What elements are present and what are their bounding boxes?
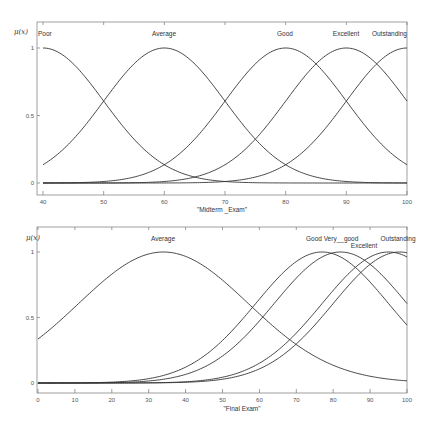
x-tick-label: 80	[282, 199, 289, 205]
series-label: Good	[277, 30, 293, 37]
curve-excellent	[38, 252, 407, 383]
x-tick-label: 40	[182, 397, 189, 403]
curve-good	[38, 252, 407, 383]
series-label: Good	[306, 235, 322, 242]
series-label: Poor	[38, 30, 53, 37]
curve-very-good	[38, 252, 407, 383]
y-tick-label: 0.5	[26, 315, 35, 321]
x-tick-label: 100	[402, 397, 413, 403]
x-tick-label: 60	[256, 397, 263, 403]
bottom-x-axis-label: "Final Exam"	[223, 405, 261, 412]
top-chart: μ(x) 00.51 405060708090100 PoorAverageGo…	[14, 22, 413, 214]
bottom-curves	[38, 252, 407, 383]
x-tick-label: 40	[40, 199, 47, 205]
x-tick-label: 80	[330, 397, 337, 403]
top-x-ticks: 405060708090100	[40, 22, 413, 205]
x-tick-label: 70	[222, 199, 229, 205]
y-tick-label: 0.5	[26, 113, 35, 119]
x-tick-label: 90	[367, 397, 374, 403]
x-tick-label: 20	[108, 397, 115, 403]
bottom-y-axis-label: μ(x)	[26, 234, 40, 242]
series-label: Outstanding	[372, 30, 407, 38]
x-tick-label: 30	[145, 397, 152, 403]
y-tick-label: 0	[31, 180, 35, 186]
x-tick-label: 60	[161, 199, 168, 205]
x-tick-label: 50	[219, 397, 226, 403]
y-tick-label: 0	[31, 380, 35, 386]
series-label: Outstanding	[380, 235, 415, 243]
curve-outstanding	[43, 48, 407, 183]
x-tick-label: 50	[100, 199, 107, 205]
top-x-axis-label: "Midterm _Exam"	[197, 206, 248, 214]
membership-function-figure: μ(x) 00.51 405060708090100 PoorAverageGo…	[0, 0, 440, 424]
series-label: Excellent	[351, 242, 378, 249]
curve-good	[43, 48, 407, 183]
curve-average	[43, 48, 407, 183]
series-label: Excellent	[333, 30, 360, 37]
x-tick-label: 0	[36, 397, 40, 403]
curve-poor	[43, 48, 407, 183]
x-tick-label: 90	[343, 199, 350, 205]
bottom-plot-frame	[37, 227, 407, 393]
top-series-labels: PoorAverageGoodExcellentOutstanding	[38, 30, 407, 38]
curve-excellent	[43, 48, 407, 183]
y-tick-label: 1	[31, 45, 35, 51]
series-label: Average	[152, 30, 176, 38]
x-tick-label: 100	[402, 199, 413, 205]
series-label: Average	[151, 235, 175, 243]
top-y-ticks: 00.51	[26, 45, 40, 186]
bottom-y-ticks: 00.51	[26, 249, 40, 386]
top-y-axis-label: μ(x)	[14, 28, 28, 36]
x-tick-label: 70	[293, 397, 300, 403]
bottom-series-labels: AverageGoodVery__goodExcellentOutstandin…	[151, 235, 416, 249]
y-tick-label: 1	[31, 249, 35, 255]
x-tick-label: 10	[72, 397, 79, 403]
top-curves	[43, 48, 407, 183]
curve-outstanding	[38, 252, 407, 383]
bottom-chart: μ(x) 00.51 0102030405060708090100 Averag…	[26, 227, 416, 412]
